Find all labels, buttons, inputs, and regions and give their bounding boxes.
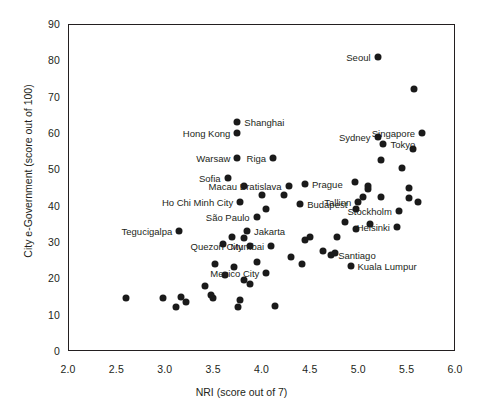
y-tick-label: 80 bbox=[30, 54, 60, 66]
data-point[interactable] bbox=[237, 297, 244, 304]
x-tick-label: 4.0 bbox=[242, 363, 282, 375]
y-tick-label: 40 bbox=[30, 200, 60, 212]
data-point[interactable] bbox=[332, 249, 339, 256]
data-point-label: Santiago bbox=[338, 249, 376, 260]
data-point[interactable] bbox=[377, 193, 384, 200]
x-tick-label: 4.5 bbox=[290, 363, 330, 375]
data-point-label: Shanghai bbox=[244, 117, 284, 128]
data-point[interactable] bbox=[419, 130, 426, 137]
data-point-label: Bratislava bbox=[240, 180, 282, 191]
data-point-label: Prague bbox=[312, 178, 343, 189]
data-point[interactable] bbox=[173, 304, 180, 311]
data-point-label: Mexico City bbox=[210, 267, 259, 278]
data-point[interactable] bbox=[299, 260, 306, 267]
data-point-label: Macau bbox=[209, 180, 238, 191]
x-tick-label: 2.5 bbox=[96, 363, 136, 375]
data-point[interactable] bbox=[272, 302, 279, 309]
data-point[interactable] bbox=[374, 133, 381, 140]
data-point[interactable] bbox=[297, 200, 304, 207]
data-point[interactable] bbox=[398, 164, 405, 171]
data-point-label: Jakarta bbox=[254, 226, 285, 237]
data-point[interactable] bbox=[280, 191, 287, 198]
data-point[interactable] bbox=[263, 206, 270, 213]
y-axis-title: City e-Government (score out of 100) bbox=[22, 21, 34, 321]
data-point[interactable] bbox=[234, 130, 241, 137]
y-tick-label: 90 bbox=[30, 18, 60, 30]
data-point[interactable] bbox=[176, 228, 183, 235]
data-point[interactable] bbox=[263, 269, 270, 276]
data-point-label: Helsinki bbox=[357, 222, 390, 233]
data-point[interactable] bbox=[395, 208, 402, 215]
y-tick-label: 0 bbox=[30, 345, 60, 357]
y-tick-label: 10 bbox=[30, 309, 60, 321]
data-point[interactable] bbox=[364, 186, 371, 193]
data-point[interactable] bbox=[415, 199, 422, 206]
x-tick-label: 3.5 bbox=[193, 363, 233, 375]
data-point[interactable] bbox=[355, 199, 362, 206]
data-point[interactable] bbox=[287, 253, 294, 260]
data-point-label: Kuala Lumpur bbox=[358, 260, 417, 271]
data-point[interactable] bbox=[302, 180, 309, 187]
data-point[interactable] bbox=[333, 233, 340, 240]
data-point[interactable] bbox=[246, 280, 253, 287]
data-point[interactable] bbox=[380, 140, 387, 147]
x-tick-label: 5.0 bbox=[338, 363, 378, 375]
y-tick-label: 30 bbox=[30, 236, 60, 248]
x-tick-label: 5.5 bbox=[387, 363, 427, 375]
data-point[interactable] bbox=[378, 157, 385, 164]
data-point[interactable] bbox=[352, 179, 359, 186]
data-point-label: Stockholm bbox=[348, 206, 392, 217]
data-point-label: Warsaw bbox=[196, 153, 230, 164]
data-point[interactable] bbox=[353, 226, 360, 233]
data-point[interactable] bbox=[219, 240, 226, 247]
data-point[interactable] bbox=[159, 295, 166, 302]
data-point-label: Hong Kong bbox=[183, 128, 231, 139]
data-point[interactable] bbox=[202, 282, 209, 289]
data-point-label: Ho Chi Minh City bbox=[162, 197, 233, 208]
data-point[interactable] bbox=[235, 304, 242, 311]
data-point[interactable] bbox=[347, 262, 354, 269]
data-point[interactable] bbox=[237, 199, 244, 206]
data-point-label: Mumbai bbox=[230, 240, 264, 251]
y-tick-label: 50 bbox=[30, 163, 60, 175]
data-point[interactable] bbox=[410, 146, 417, 153]
data-point-label: São Paulo bbox=[206, 211, 250, 222]
data-point[interactable] bbox=[405, 195, 412, 202]
data-point[interactable] bbox=[341, 219, 348, 226]
y-tick-label: 20 bbox=[30, 272, 60, 284]
data-point-label: Seoul bbox=[346, 51, 370, 62]
data-point[interactable] bbox=[234, 155, 241, 162]
data-point[interactable] bbox=[270, 155, 277, 162]
data-point[interactable] bbox=[212, 260, 219, 267]
data-point[interactable] bbox=[183, 298, 190, 305]
data-point[interactable] bbox=[411, 86, 418, 93]
data-point[interactable] bbox=[285, 182, 292, 189]
data-point[interactable] bbox=[208, 291, 215, 298]
data-point[interactable] bbox=[405, 184, 412, 191]
data-point[interactable] bbox=[258, 191, 265, 198]
data-point[interactable] bbox=[268, 242, 275, 249]
data-point-label: Riga bbox=[247, 153, 267, 164]
data-point-label: Tegucigalpa bbox=[122, 226, 173, 237]
scatter-chart-figure: 0102030405060708090 2.02.53.03.54.04.55.… bbox=[0, 0, 483, 418]
data-point[interactable] bbox=[302, 237, 309, 244]
x-tick-label: 2.0 bbox=[48, 363, 88, 375]
x-axis-title: NRI (score out of 7) bbox=[0, 386, 483, 398]
data-point[interactable] bbox=[234, 119, 241, 126]
x-tick-label: 6.0 bbox=[435, 363, 475, 375]
data-point[interactable] bbox=[243, 228, 250, 235]
data-point[interactable] bbox=[320, 248, 327, 255]
data-point[interactable] bbox=[123, 295, 130, 302]
y-tick-label: 60 bbox=[30, 127, 60, 139]
data-point[interactable] bbox=[229, 233, 236, 240]
y-tick-label: 70 bbox=[30, 91, 60, 103]
data-point[interactable] bbox=[253, 258, 260, 265]
data-point[interactable] bbox=[393, 224, 400, 231]
data-point[interactable] bbox=[374, 53, 381, 60]
data-point-label: Sydney bbox=[339, 131, 371, 142]
x-tick-label: 3.0 bbox=[145, 363, 185, 375]
data-point[interactable] bbox=[253, 213, 260, 220]
